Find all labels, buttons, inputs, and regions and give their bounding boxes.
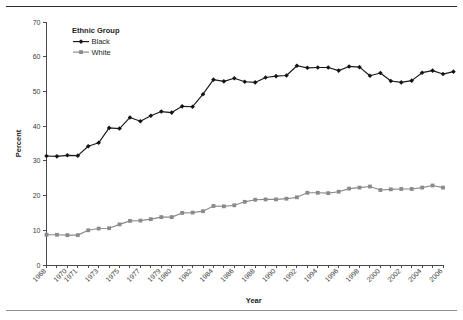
data-point-white	[65, 233, 69, 237]
data-point-white	[285, 197, 289, 201]
x-axis-tick-label-group: 1998	[344, 267, 360, 283]
data-point-white	[358, 186, 362, 190]
data-point-black	[138, 119, 143, 124]
data-point-white	[201, 209, 205, 213]
y-axis-tick-label: 50	[33, 88, 41, 95]
series-line-black	[47, 66, 454, 157]
data-point-white	[347, 187, 351, 191]
data-point-white	[337, 190, 341, 194]
data-point-white	[410, 187, 414, 191]
data-point-white	[128, 219, 132, 223]
data-point-white	[76, 233, 80, 237]
data-point-white	[264, 197, 268, 201]
x-axis-tick-label: 1977	[125, 267, 141, 283]
x-axis-tick-label: 1992	[282, 267, 298, 283]
data-point-white	[118, 222, 122, 226]
legend-marker-white	[79, 50, 83, 54]
legend-title: Ethnic Group	[72, 26, 120, 35]
x-axis-tick-label-group: 1994	[303, 267, 319, 283]
x-axis-tick-label: 1996	[323, 267, 339, 283]
x-axis-tick-label-group: 1990	[261, 267, 277, 283]
data-point-white	[316, 191, 320, 195]
y-axis-tick-label: 30	[33, 157, 41, 164]
x-axis-tick-label: 1975	[104, 267, 120, 283]
data-point-white	[180, 211, 184, 215]
data-point-white	[431, 184, 435, 188]
y-axis-tick-label: 20	[33, 192, 41, 199]
x-axis-tick-label: 1968	[31, 267, 47, 283]
data-point-black	[55, 154, 60, 159]
x-axis-tick-label-group: 1968	[31, 267, 47, 283]
x-axis-tick-label-group: 1996	[323, 267, 339, 283]
data-point-white	[212, 204, 216, 208]
y-axis-tick-label: 40	[33, 123, 41, 130]
y-axis-title-group: Percent	[14, 129, 23, 157]
data-point-white	[107, 226, 111, 230]
data-point-black	[274, 74, 279, 79]
data-point-black	[65, 153, 70, 158]
data-point-white	[399, 187, 403, 191]
x-axis-tick-label-group: 1992	[282, 267, 298, 283]
x-axis-tick-label-group: 1982	[177, 267, 193, 283]
data-point-white	[295, 195, 299, 199]
x-axis-tick-label: 2000	[365, 267, 381, 283]
x-axis-tick-label-group: 2002	[386, 267, 402, 283]
line-chart-plot: 0102030405060701968197019711973197519771…	[0, 0, 463, 320]
data-point-white	[232, 203, 236, 207]
y-axis-tick-label: 70	[33, 19, 41, 26]
data-point-white	[159, 215, 163, 219]
data-point-white	[368, 185, 372, 189]
x-axis-title: Year	[246, 296, 262, 305]
data-point-white	[420, 186, 424, 190]
x-axis-tick-label: 2002	[386, 267, 402, 283]
chart-figure: 0102030405060701968197019711973197519771…	[0, 0, 463, 320]
x-axis-tick-label-group: 2004	[407, 267, 423, 283]
data-point-white	[243, 200, 247, 204]
data-point-white	[97, 227, 101, 231]
x-axis-tick-label: 2004	[407, 267, 423, 283]
data-point-white	[222, 204, 226, 208]
x-axis-tick-label-group: 1986	[219, 267, 235, 283]
data-point-black	[347, 64, 352, 69]
x-axis-tick-label: 1982	[177, 267, 193, 283]
x-axis-tick-label: 1984	[198, 267, 214, 283]
data-point-black	[159, 109, 164, 114]
data-point-black	[305, 66, 310, 71]
data-point-black	[149, 113, 154, 118]
y-axis-tick-label: 60	[33, 53, 41, 60]
data-point-black	[315, 65, 320, 70]
x-axis-tick-label-group: 1977	[125, 267, 141, 283]
data-point-black	[232, 76, 237, 81]
data-point-black	[242, 79, 247, 84]
data-point-white	[378, 188, 382, 192]
y-axis-title: Percent	[14, 129, 23, 157]
data-point-black	[451, 69, 456, 74]
x-axis-tick-label-group: 1984	[198, 267, 214, 283]
legend-label-black: Black	[92, 37, 111, 46]
data-point-black	[222, 79, 227, 84]
data-point-black	[326, 65, 331, 70]
x-axis-tick-label-group: 1973	[83, 267, 99, 283]
data-point-white	[389, 187, 393, 191]
x-axis-tick-label: 1998	[344, 267, 360, 283]
data-point-white	[274, 197, 278, 201]
data-point-white	[441, 186, 445, 190]
x-axis-tick-label: 1990	[261, 267, 277, 283]
data-point-black	[399, 80, 404, 85]
data-point-black	[336, 68, 341, 73]
data-point-white	[191, 211, 195, 215]
data-point-white	[170, 215, 174, 219]
data-point-white	[326, 191, 330, 195]
x-axis-tick-label: 2006	[428, 267, 444, 283]
x-axis-tick-label-group: 2000	[365, 267, 381, 283]
x-axis-tick-label: 1988	[240, 267, 256, 283]
data-point-white	[305, 191, 309, 195]
series-line-white	[47, 186, 444, 236]
legend-marker-black	[79, 39, 84, 44]
x-axis-tick-label: 1994	[303, 267, 319, 283]
data-point-white	[55, 233, 59, 237]
y-axis-tick-label: 10	[33, 227, 41, 234]
x-axis-tick-label-group: 1988	[240, 267, 256, 283]
data-point-white	[149, 217, 153, 221]
x-axis-tick-label: 1973	[83, 267, 99, 283]
